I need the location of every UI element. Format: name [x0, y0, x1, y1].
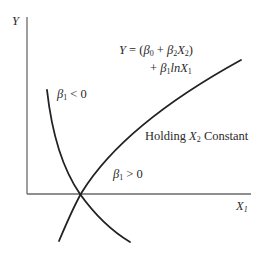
- holding-constant-label: Holding X2 Constant: [145, 130, 248, 143]
- beta1-neg-subscript: 1: [63, 93, 67, 102]
- holding-var: X: [189, 129, 197, 143]
- x1-symbol: X: [180, 61, 188, 75]
- holding-var-subscript: 2: [197, 135, 201, 144]
- equation-plus: +: [157, 43, 164, 57]
- ln-symbol: ln: [170, 61, 180, 75]
- y-axis-label: Y: [12, 15, 19, 28]
- equation-line-2: + β1lnX1: [150, 62, 192, 75]
- equation-close-paren: ): [189, 43, 193, 57]
- beta1-neg-relation: < 0: [70, 87, 86, 101]
- y-axis-label-text: Y: [12, 14, 19, 28]
- x1-subscript: 1: [188, 67, 192, 76]
- x2-symbol: X: [177, 43, 185, 57]
- x-axis-label: X1: [236, 200, 248, 213]
- x-axis-label-text: X: [236, 199, 244, 213]
- holding-suffix: Constant: [204, 129, 248, 143]
- beta1-pos-subscript: 1: [119, 173, 123, 182]
- x-axis-label-subscript: 1: [244, 205, 248, 214]
- equation-line-1: Y = (β0 + β2X2): [119, 44, 193, 57]
- holding-prefix: Holding: [145, 129, 186, 143]
- beta1-pos-relation: > 0: [126, 167, 142, 181]
- beta1-negative-label: β1 < 0: [57, 88, 87, 101]
- beta0-subscript: 0: [150, 49, 154, 58]
- equation-equals: =: [129, 43, 136, 57]
- equation-lhs: Y: [119, 43, 126, 57]
- equation-plus-2: +: [150, 61, 157, 75]
- curve-beta1-negative: [47, 90, 130, 242]
- beta1-positive-label: β1 > 0: [113, 168, 143, 181]
